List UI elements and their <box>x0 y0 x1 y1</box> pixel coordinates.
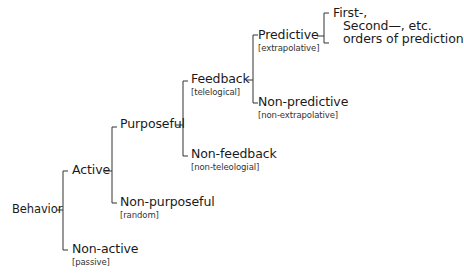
node-sublabel: [non-extrapolative] <box>258 111 348 120</box>
node-label: Behavior <box>12 204 62 216</box>
node-label: Non-predictive <box>258 96 348 109</box>
bracket-active <box>112 127 117 203</box>
node-non-predictive: Non-predictive [non-extrapolative] <box>258 96 348 119</box>
node-label: Active <box>72 164 110 177</box>
node-label: Non-feedback <box>191 148 277 161</box>
node-sublabel: [passive] <box>72 258 138 267</box>
node-predictive: Predictive [extrapolative] <box>258 29 319 52</box>
node-behavior: Behavior <box>12 204 62 216</box>
node-sublabel: [extrapolative] <box>258 44 319 53</box>
bracket-predictive <box>324 13 329 43</box>
node-label: Purposeful <box>120 118 185 131</box>
node-purposeful: Purposeful <box>120 118 185 131</box>
node-feedback: Feedback [telelogical] <box>191 73 250 96</box>
node-non-feedback: Non-feedback [non-teleologial] <box>191 148 277 171</box>
node-sublabel: [random] <box>120 211 215 220</box>
orders-line-3: orders of prediction <box>333 32 464 45</box>
node-active: Active <box>72 164 110 177</box>
node-non-purposeful: Non-purposeful [random] <box>120 196 215 219</box>
node-label: Non-purposeful <box>120 196 215 209</box>
node-label: Predictive <box>258 29 319 42</box>
node-sublabel: [non-teleologial] <box>191 163 277 172</box>
node-label: Non-active <box>72 243 138 256</box>
bracket-behavior <box>63 171 68 250</box>
node-orders-of-prediction: First-, Second—, etc. orders of predicti… <box>333 6 464 45</box>
node-sublabel: [telelogical] <box>191 88 250 97</box>
node-label: Feedback <box>191 73 250 86</box>
node-non-active: Non-active [passive] <box>72 243 138 266</box>
